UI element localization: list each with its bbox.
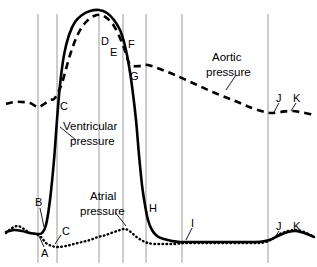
wiggers-diagram-svg: A B C C D E F G H I J K J K Aortic press… <box>0 0 317 267</box>
atrial-pressure-label-line1: Atrial <box>90 190 116 202</box>
point-label-J-aortic: J <box>276 92 282 104</box>
point-label-B: B <box>35 196 42 208</box>
atrial-pressure-label-line2: pressure <box>80 205 125 217</box>
point-label-C-atrial: C <box>62 225 70 237</box>
point-label-I: I <box>191 217 194 229</box>
point-label-D: D <box>101 35 109 47</box>
point-label-H: H <box>149 202 157 214</box>
aortic-pressure-label-line2: pressure <box>206 66 251 78</box>
leader-lines <box>39 75 296 247</box>
point-label-C-ventricular: C <box>60 100 68 112</box>
point-label-A: A <box>41 247 49 259</box>
ventricular-pressure-label-line1: Ventricular <box>63 120 118 132</box>
series-labels: Aortic pressure Ventricular pressure Atr… <box>63 51 251 217</box>
leader-C-atrial <box>55 235 61 244</box>
aortic-pressure-label-line1: Aortic <box>212 51 242 63</box>
leader-K-aortic <box>291 103 296 111</box>
leader-B <box>40 208 44 227</box>
leader-I <box>186 228 192 240</box>
point-label-J-atrial: J <box>276 220 282 232</box>
point-labels: A B C C D E F G H I J K J K <box>35 35 301 259</box>
point-label-E: E <box>110 46 117 58</box>
point-label-K-aortic: K <box>293 92 301 104</box>
point-label-G: G <box>130 70 139 82</box>
ventricular-pressure-label-line2: pressure <box>70 135 115 147</box>
leader-J-aortic <box>274 103 279 112</box>
point-label-K-atrial: K <box>293 220 301 232</box>
pressure-curve-figure: A B C C D E F G H I J K J K Aortic press… <box>0 0 317 267</box>
point-label-F: F <box>128 38 135 50</box>
